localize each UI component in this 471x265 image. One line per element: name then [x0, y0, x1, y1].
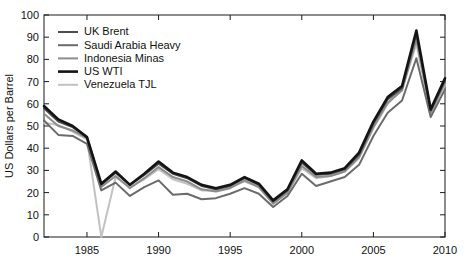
y-tick-label: 10	[27, 209, 39, 221]
chart-legend: UK BrentSaudi Arabia HeavyIndonesia Mina…	[58, 25, 181, 90]
legend-label-indonesia-minas: Indonesia Minas	[84, 52, 165, 64]
y-tick-label: 60	[27, 98, 39, 110]
y-tick-label: 50	[27, 120, 39, 132]
legend-label-us-wti: US WTI	[84, 65, 123, 77]
x-tick-label: 1995	[218, 244, 242, 256]
y-tick-label: 40	[27, 142, 39, 154]
legend-label-saudi-arabia-heavy: Saudi Arabia Heavy	[84, 39, 181, 51]
y-tick-label: 20	[27, 187, 39, 199]
x-tick-label: 2000	[290, 244, 314, 256]
y-tick-label: 100	[21, 9, 39, 21]
legend-label-venezuela-tjl: Venezuela TJL	[84, 78, 157, 90]
y-tick-label: 80	[27, 53, 39, 65]
x-tick-label: 1990	[146, 244, 170, 256]
y-tick-label: 70	[27, 76, 39, 88]
x-tick-label: 2010	[433, 244, 457, 256]
y-axis-title: US Dollars per Barrel	[3, 74, 15, 178]
oil-price-chart: 0102030405060708090100 19851990199520002…	[0, 0, 471, 265]
y-tick-label: 90	[27, 31, 39, 43]
chart-svg: 0102030405060708090100 19851990199520002…	[0, 0, 471, 265]
y-tick-label: 0	[33, 231, 39, 243]
legend-label-uk-brent: UK Brent	[84, 25, 129, 37]
x-tick-label: 2005	[361, 244, 385, 256]
x-tick-label: 1985	[75, 244, 99, 256]
y-tick-label: 30	[27, 164, 39, 176]
